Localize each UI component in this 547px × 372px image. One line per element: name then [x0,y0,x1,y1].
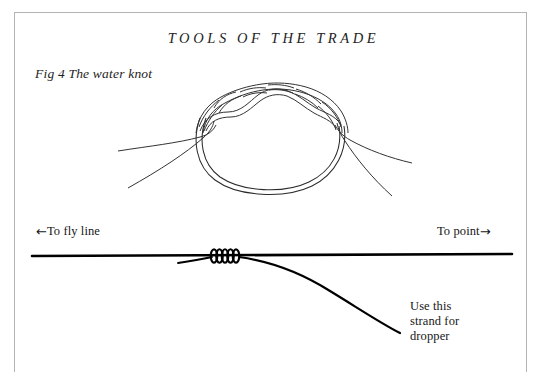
dropper-label-line-1: Use this [410,299,490,314]
dropper-label-line-3: dropper [410,329,490,344]
arrow-left-icon: ← [36,224,47,239]
tag-end-strand [178,257,212,263]
label-to-fly-line: ←To fly line [36,224,100,239]
dropper-label-line-2: strand for [410,314,490,329]
dropper-strand [239,257,400,333]
arrow-right-icon: → [480,224,491,239]
label-to-point-text: To point [437,224,480,238]
label-to-point: To point→ [437,224,491,239]
label-to-fly-line-text: To fly line [47,224,100,238]
label-use-this-strand-for-dropper: Use this strand for dropper [410,299,490,344]
leader-line [32,254,512,256]
